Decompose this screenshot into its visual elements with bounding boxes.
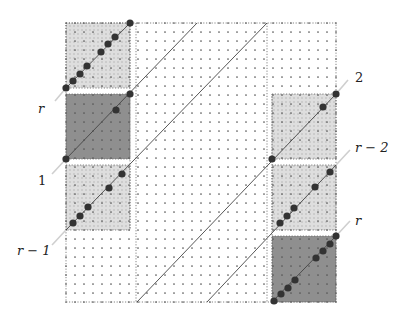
lattice-node [326, 240, 333, 247]
lattice-node [126, 90, 133, 97]
lattice-node [270, 297, 277, 304]
lattice-node [284, 284, 291, 291]
shaded-blocks [66, 23, 336, 302]
lattice-node [276, 219, 283, 226]
lattice-node [84, 203, 91, 210]
lattice-node [126, 19, 133, 26]
lattice-node [118, 170, 125, 177]
lattice-node [332, 232, 339, 239]
label-r-right: r [355, 213, 362, 228]
lattice-node [69, 77, 76, 84]
lattice-node [83, 62, 90, 69]
label-2: 2 [355, 70, 363, 85]
lattice-node [97, 48, 104, 55]
lattice-node [311, 183, 318, 190]
lattice-node [319, 103, 326, 110]
lattice-node [112, 106, 119, 113]
guide-line [336, 150, 350, 165]
lattice-node [62, 155, 69, 162]
lattice-node [290, 204, 297, 211]
lattice-node [104, 40, 111, 47]
grid-diagram: r1r − 12r − 2r [0, 0, 404, 323]
lattice-node [283, 212, 290, 219]
lattice-node [326, 168, 333, 175]
label-1: 1 [38, 173, 46, 188]
lattice-node [62, 84, 69, 91]
lattice-node [291, 276, 298, 283]
lattice-node [319, 247, 326, 254]
lattice-node [111, 33, 118, 40]
label-r-minus-2: r − 2 [355, 140, 389, 155]
lattice-node [332, 90, 339, 97]
guide-line [52, 230, 66, 245]
lattice-node [76, 212, 83, 219]
lattice-node [105, 184, 112, 191]
lattice-node [312, 254, 319, 261]
label-r-minus-1: r − 1 [17, 243, 51, 258]
label-r-left: r [38, 101, 45, 116]
lattice-node [76, 70, 83, 77]
lattice-node [268, 155, 275, 162]
lattice-node [277, 290, 284, 297]
lattice-node [69, 219, 76, 226]
